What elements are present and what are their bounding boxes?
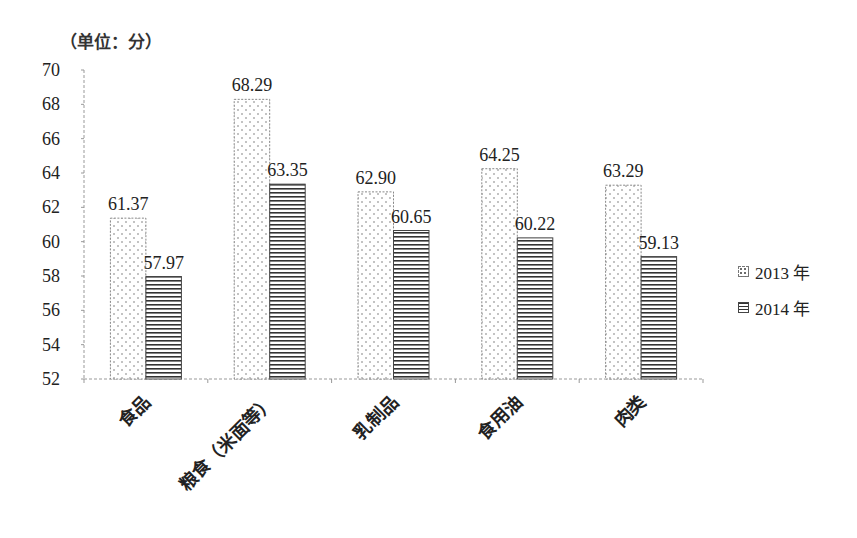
legend-label: 2014 年 — [755, 295, 810, 320]
bar-2013 — [482, 169, 518, 379]
data-label: 61.37 — [108, 194, 149, 214]
y-tick-label: 52 — [42, 369, 60, 389]
category-labels: 食品粮食（米面等）乳制品食用油肉类 — [114, 390, 651, 495]
data-label: 57.97 — [143, 253, 184, 273]
data-label: 62.90 — [356, 168, 397, 188]
y-tick-label: 66 — [42, 129, 60, 149]
legend-swatch-dots — [738, 266, 749, 277]
legend-swatch-lines — [738, 302, 749, 313]
legend-label: 2013 年 — [755, 259, 810, 284]
y-tick-label: 60 — [42, 232, 60, 252]
bar-2014 — [641, 257, 677, 379]
y-tick-label: 70 — [42, 60, 60, 80]
y-tick-label: 58 — [42, 266, 60, 286]
y-tick-label: 56 — [42, 300, 60, 320]
y-tick-label: 64 — [42, 163, 60, 183]
data-label: 60.65 — [391, 207, 432, 227]
data-label: 60.22 — [515, 214, 556, 234]
data-label: 63.29 — [603, 161, 644, 181]
data-label: 59.13 — [639, 233, 680, 253]
bar-2014 — [517, 238, 553, 379]
y-axis: 52545658606264666870 — [42, 60, 84, 389]
y-tick-label: 62 — [42, 197, 60, 217]
legend: 2013 年 2014 年 — [738, 258, 810, 330]
bar-2014 — [270, 184, 306, 379]
bars — [110, 99, 676, 379]
legend-item-2014: 2014 年 — [738, 294, 810, 320]
bar-2013 — [606, 185, 642, 379]
category-label: 肉类 — [610, 390, 651, 431]
bar-2014 — [146, 277, 182, 379]
bar-2013 — [234, 99, 270, 379]
y-tick-label: 68 — [42, 94, 60, 114]
data-label: 68.29 — [232, 75, 273, 95]
category-label: 食品 — [114, 391, 155, 432]
data-label: 63.35 — [267, 160, 308, 180]
y-tick-label: 54 — [42, 335, 60, 355]
bar-chart: 52545658606264666870 61.3757.9768.2963.3… — [0, 0, 857, 538]
bar-2013 — [110, 218, 145, 379]
category-label: 乳制品 — [350, 392, 402, 444]
category-label: 粮食（米面等） — [175, 391, 279, 495]
bar-2013 — [358, 192, 394, 379]
legend-item-2013: 2013 年 — [738, 258, 810, 284]
x-axis — [84, 379, 703, 383]
data-label: 64.25 — [479, 145, 520, 165]
category-label: 食用油 — [472, 391, 526, 445]
bar-2014 — [394, 231, 430, 379]
